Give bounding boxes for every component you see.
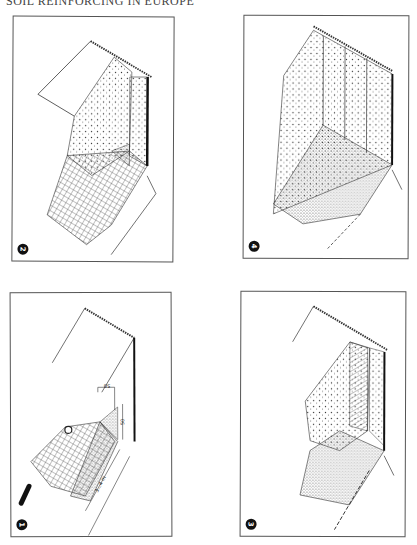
facing-strip <box>369 348 384 446</box>
compacted-fill <box>300 431 384 505</box>
dimension-line <box>392 170 402 190</box>
figure-panel-4: 4 <box>243 15 410 260</box>
drain-pipe <box>21 486 29 503</box>
dimension-bracket <box>98 387 115 410</box>
facing-top-edge <box>85 308 134 338</box>
figure-2-drawing <box>12 17 173 262</box>
dimension-label-top: 50 <box>104 383 110 389</box>
figure-panel-3: 3 <box>240 291 407 538</box>
figure-number-badge: 2 <box>17 244 28 255</box>
figure-3-drawing <box>241 292 406 537</box>
figure-panel-2: 2 <box>11 16 174 263</box>
geogrid-layer <box>47 151 147 245</box>
pipe-end <box>65 426 72 433</box>
figure-panel-1: 50 50 3...4 m 1 <box>10 292 173 538</box>
geogrid-wrap <box>350 342 368 431</box>
dimension-label-height: 50 <box>119 419 125 425</box>
slope-outline <box>293 306 314 342</box>
figure-number-badge: 3 <box>246 519 257 530</box>
facing-strip <box>129 77 147 166</box>
figure-4-drawing <box>244 16 409 259</box>
dimension-line <box>384 456 394 476</box>
figure-number-badge: 4 <box>249 241 260 252</box>
running-head: SOIL REINFORCING IN EUROPE <box>6 0 194 9</box>
figure-1-drawing <box>11 293 172 537</box>
figure-number-badge: 1 <box>16 519 27 530</box>
dimension-line <box>328 214 361 249</box>
slope-outline <box>52 308 85 362</box>
